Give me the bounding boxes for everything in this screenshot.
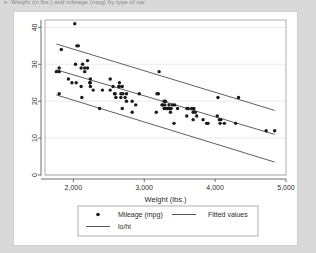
chart-card: 2,0003,0004,0005,000 010203040 Weight (l… xyxy=(14,12,297,245)
data-point xyxy=(73,22,76,25)
data-point xyxy=(157,70,160,73)
fitted-and-bound-lines xyxy=(56,44,274,162)
data-point xyxy=(163,103,166,106)
data-point xyxy=(169,107,172,110)
legend-label: Fitted values xyxy=(208,211,248,218)
figure-caption: e. Weight (in lbs.) and mileage (mpg) by… xyxy=(4,0,145,5)
data-point xyxy=(185,114,188,117)
data-point xyxy=(134,103,137,106)
legend-marker-point xyxy=(96,213,100,217)
data-point xyxy=(57,66,60,69)
data-point xyxy=(70,81,73,84)
legend-label: lo/hi xyxy=(118,223,131,230)
data-point xyxy=(74,81,77,84)
data-point xyxy=(138,92,141,95)
y-tick-label: 0 xyxy=(31,173,38,177)
data-point xyxy=(121,107,124,110)
y-tick-label: 10 xyxy=(31,134,38,142)
data-point xyxy=(111,85,114,88)
data-point xyxy=(176,107,179,110)
data-point xyxy=(237,96,240,99)
x-axis-ticks: 2,0003,0004,0005,000 xyxy=(65,179,295,191)
data-point xyxy=(195,114,198,117)
data-point xyxy=(92,88,95,91)
chart-legend: Mileage (mpg)Fitted valueslo/hi xyxy=(78,206,258,236)
data-point xyxy=(83,70,86,73)
data-point xyxy=(79,66,82,69)
data-point xyxy=(77,44,80,47)
data-point xyxy=(67,77,70,80)
data-point xyxy=(172,122,175,125)
data-point xyxy=(169,111,172,114)
data-point xyxy=(86,59,89,62)
data-point xyxy=(109,88,112,91)
data-point xyxy=(109,77,112,80)
data-point xyxy=(264,129,267,132)
data-point xyxy=(234,122,237,125)
data-point xyxy=(223,122,226,125)
data-point xyxy=(155,111,158,114)
x-axis-label: Weight (lbs.) xyxy=(145,195,187,204)
data-point xyxy=(89,77,92,80)
data-point xyxy=(218,122,221,125)
data-point xyxy=(89,85,92,88)
data-point xyxy=(118,81,121,84)
data-point xyxy=(194,111,197,114)
y-tick-label: 30 xyxy=(31,60,38,68)
data-point xyxy=(273,129,276,132)
data-point xyxy=(216,114,219,117)
data-point xyxy=(201,118,204,121)
data-point xyxy=(167,103,170,106)
x-tick-label: 5,000 xyxy=(277,184,295,191)
data-point xyxy=(80,96,83,99)
data-point xyxy=(164,99,167,102)
data-point xyxy=(114,96,117,99)
y-tick-label: 40 xyxy=(31,23,38,31)
data-point xyxy=(186,107,189,110)
legend-label: Mileage (mpg) xyxy=(118,211,163,219)
data-point xyxy=(125,92,128,95)
scatter-chart: 2,0003,0004,0005,000 010203040 Weight (l… xyxy=(14,12,297,245)
data-point xyxy=(86,66,89,69)
data-point xyxy=(157,92,160,95)
data-point xyxy=(130,99,133,102)
y-axis-ticks: 010203040 xyxy=(31,23,41,177)
data-point xyxy=(206,122,209,125)
data-point xyxy=(57,92,60,95)
data-point xyxy=(74,63,77,66)
data-point xyxy=(119,96,122,99)
x-tick-label: 2,000 xyxy=(65,184,83,191)
axis-lines xyxy=(41,20,286,179)
data-point xyxy=(60,48,63,51)
data-point xyxy=(89,81,92,84)
data-point xyxy=(121,92,124,95)
data-point xyxy=(125,99,128,102)
data-point xyxy=(173,103,176,106)
data-point xyxy=(191,118,194,121)
data-point xyxy=(192,107,195,110)
data-point xyxy=(216,96,219,99)
data-point xyxy=(121,85,124,88)
x-tick-label: 3,000 xyxy=(135,184,153,191)
data-point xyxy=(113,92,116,95)
data-point xyxy=(98,107,101,110)
y-tick-label: 20 xyxy=(31,97,38,105)
data-point xyxy=(79,85,82,88)
data-point xyxy=(130,111,133,114)
data-point xyxy=(219,118,222,121)
data-point xyxy=(57,70,60,73)
data-point xyxy=(101,88,104,91)
data-point xyxy=(123,96,126,99)
x-tick-label: 4,000 xyxy=(206,184,224,191)
data-point xyxy=(81,63,84,66)
chart-plot-container: 2,0003,0004,0005,000 010203040 Weight (l… xyxy=(14,12,297,245)
